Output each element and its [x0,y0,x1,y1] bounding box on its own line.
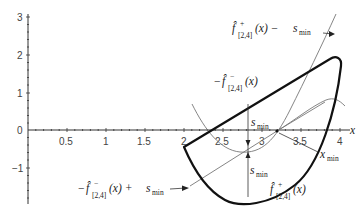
interval-bound-diagram: 0.5 1 1.5 2 2.5 3 3.5 4 x 3 2 1 0 −1 f̂ [0,0,361,214]
svg-text:min: min [327,154,339,163]
svg-text:min: min [152,188,164,197]
label-xmin: x min [319,148,339,163]
svg-text:f̂: f̂ [270,182,275,196]
svg-text:f̂: f̂ [86,181,91,195]
svg-text:s: s [250,164,255,176]
svg-text:+: + [240,19,244,28]
svg-text:(x) +: (x) + [109,182,132,195]
svg-text:−: − [230,72,234,81]
svg-text:(x): (x) [293,183,306,196]
xmin-point [275,129,278,132]
svg-text:min: min [256,170,268,179]
label-smin-upper: s min [251,116,269,131]
svg-text:[2,4]: [2,4] [276,192,290,201]
label-neg-f-minus-plus-smin: − f̂ − [2,4] (x) + s min [78,179,164,200]
label-neg-f-minus: − f̂ − [2,4] (x) [214,72,258,93]
y-tick-label: −1 [12,163,24,174]
label-f-plus-minus-smin: f̂ + [2,4] (x) − s min [232,19,311,40]
label-smin-lower: s min [250,164,268,179]
svg-text:f̂: f̂ [232,21,237,35]
x-tick-label: 0.5 [59,136,73,147]
x-tick-label: 4 [337,136,343,147]
svg-text:−: − [214,75,221,87]
y-tick-label: 3 [17,12,23,23]
svg-text:s: s [251,116,256,128]
svg-text:x: x [319,148,326,160]
svg-text:[2,4]: [2,4] [228,84,242,93]
svg-text:+: + [278,180,282,189]
x-tick-label: 1 [103,136,109,147]
svg-text:−: − [94,179,98,188]
svg-text:min: min [299,28,311,37]
xmin-secant-line [277,102,325,131]
y-tick-label: 1 [17,88,23,99]
svg-text:f̂: f̂ [222,74,227,88]
y-tick-label: 2 [17,50,23,61]
svg-text:(x): (x) [245,75,258,88]
svg-text:min: min [257,122,269,131]
x-axis-label: x [349,124,356,136]
svg-text:s: s [293,22,298,34]
svg-text:[2,4]: [2,4] [238,31,252,40]
x-tick-label: 1.5 [137,136,151,147]
svg-text:(x) −: (x) − [255,22,278,35]
svg-text:−: − [78,182,85,194]
svg-text:[2,4]: [2,4] [92,191,106,200]
y-tick-label: 0 [17,125,23,136]
svg-text:s: s [146,182,151,194]
